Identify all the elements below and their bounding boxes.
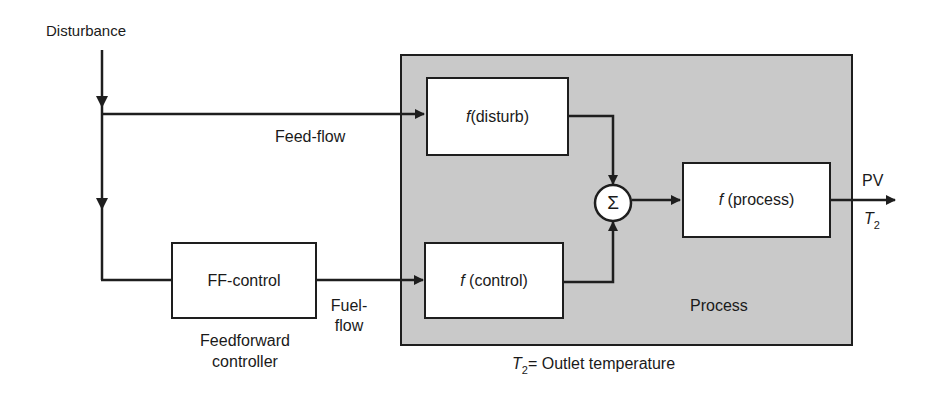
caption-text: = Outlet temperature [528,355,675,372]
f-disturb-block: f(disturb) [426,77,569,156]
ff-caption-line1: Feedforward [180,330,310,351]
f-control-arg: (control) [465,272,528,290]
control-to-sum-line [563,222,613,282]
fuel-flow-label-line2: flow [325,316,373,336]
f-process-block: f (process) [682,162,831,238]
disturbance-label: Disturbance [46,22,126,40]
caption-t2-subscript: 2 [522,364,528,376]
outlet-temperature-caption: T2= Outlet temperature [512,355,675,374]
pv-label: PV [862,172,883,190]
fuel-flow-label: Fuel- flow [325,296,373,336]
f-disturb-arg: (disturb) [470,108,529,126]
t2-subscript: 2 [874,219,880,231]
feed-flow-label: Feed-flow [275,128,345,146]
down-arrow-icon [96,96,108,108]
ff-control-label: FF-control [208,272,281,290]
caption-t2-symbol: T [512,355,522,372]
process-label: Process [690,297,748,315]
fuel-flow-label-line1: Fuel- [325,296,373,316]
t2-symbol: T [864,210,874,227]
ff-control-block: FF-control [171,242,317,319]
t2-output-label: T2 [864,210,880,229]
disturb-to-sum-line [568,116,613,184]
f-control-block: f (control) [424,242,564,319]
down-arrow-icon [96,198,108,210]
feedforward-controller-caption: Feedforward controller [180,330,310,372]
f-process-arg: (process) [723,191,794,209]
ff-caption-line2: controller [180,351,310,372]
sigma-icon: Σ [601,193,625,213]
